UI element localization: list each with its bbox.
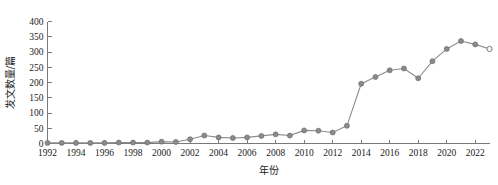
data-series (45, 39, 492, 146)
data-point-marker (444, 46, 449, 51)
x-tick-label: 2004 (209, 148, 228, 158)
data-point-marker (316, 128, 321, 133)
x-tick-label: 2022 (466, 148, 485, 158)
data-point-marker (245, 135, 250, 140)
data-point-marker (230, 136, 235, 141)
y-tick-label: 150 (29, 93, 44, 103)
data-point-marker (259, 133, 264, 138)
x-tick-label: 2018 (409, 148, 428, 158)
y-axis-title: 发文数量/篇 (4, 56, 16, 109)
x-tick-label: 1992 (38, 148, 57, 158)
y-axis: 050100150200250300350400 (29, 17, 51, 149)
x-tick-label: 2012 (323, 148, 342, 158)
x-tick-label: 2020 (437, 148, 456, 158)
publication-count-line-chart: 050100150200250300350400 199219941996199… (0, 0, 498, 185)
x-tick-label: 2010 (295, 148, 314, 158)
y-tick-label: 50 (34, 124, 44, 134)
data-point-marker (45, 140, 50, 145)
data-point-marker (273, 132, 278, 137)
data-point-marker (359, 81, 364, 86)
data-point-marker (330, 130, 335, 135)
y-tick-label: 400 (29, 17, 44, 27)
data-point-marker (145, 140, 150, 145)
x-tick-label: 2006 (238, 148, 257, 158)
data-point-marker (116, 140, 121, 145)
x-tick-label: 2000 (152, 148, 171, 158)
y-tick-label: 200 (29, 78, 44, 88)
x-tick-label: 1998 (124, 148, 143, 158)
data-point-marker (287, 133, 292, 138)
data-point-marker (373, 75, 378, 80)
data-point-marker (159, 139, 164, 144)
y-tick-label: 100 (29, 108, 44, 118)
data-point-marker (173, 139, 178, 144)
data-point-marker (473, 42, 478, 47)
data-point-marker (401, 66, 406, 71)
x-axis-title: 年份 (259, 164, 279, 176)
x-tick-label: 2014 (352, 148, 371, 158)
x-tick-label: 2008 (266, 148, 285, 158)
data-point-marker (344, 123, 349, 128)
chart-figure: 050100150200250300350400 199219941996199… (0, 0, 498, 185)
series-line-发文数量 (48, 41, 490, 143)
data-point-marker (202, 133, 207, 138)
data-point-marker (188, 137, 193, 142)
y-tick-label: 300 (29, 47, 44, 57)
y-tick-label: 250 (29, 63, 44, 73)
data-point-marker (88, 140, 93, 145)
data-point-marker (458, 39, 463, 44)
y-tick-label: 350 (29, 32, 44, 42)
x-tick-label: 1996 (95, 148, 114, 158)
data-point-marker (59, 140, 64, 145)
data-point-marker (216, 135, 221, 140)
x-tick-label: 2016 (380, 148, 399, 158)
data-point-marker (131, 140, 136, 145)
data-point-marker (102, 140, 107, 145)
data-point-marker (430, 59, 435, 64)
data-point-marker (74, 140, 79, 145)
x-tick-label: 1994 (67, 148, 86, 158)
data-point-marker (387, 68, 392, 73)
data-point-marker (302, 128, 307, 133)
x-tick-label: 2002 (181, 148, 200, 158)
data-point-marker (416, 76, 421, 81)
data-point-marker-open (487, 46, 492, 51)
